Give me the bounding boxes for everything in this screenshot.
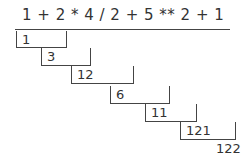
step-value: 3: [47, 49, 55, 64]
evaluation-step: 12: [71, 66, 134, 84]
expression-text: 1 + 2 * 4 / 2 + 5 ** 2 + 1: [22, 6, 224, 24]
step-value: 11: [151, 105, 168, 120]
evaluation-step: 11: [145, 104, 197, 122]
evaluation-step: 1: [16, 31, 67, 48]
expression-underline: [15, 29, 230, 30]
evaluation-step: 6: [110, 86, 170, 104]
step-value: 1: [22, 32, 30, 47]
step-value: 12: [77, 67, 94, 82]
step-value: 121: [186, 123, 211, 138]
step-value: 6: [116, 87, 124, 102]
evaluation-step: 3: [41, 48, 91, 66]
final-result: 122: [216, 141, 241, 156]
evaluation-step: 121: [180, 122, 236, 140]
